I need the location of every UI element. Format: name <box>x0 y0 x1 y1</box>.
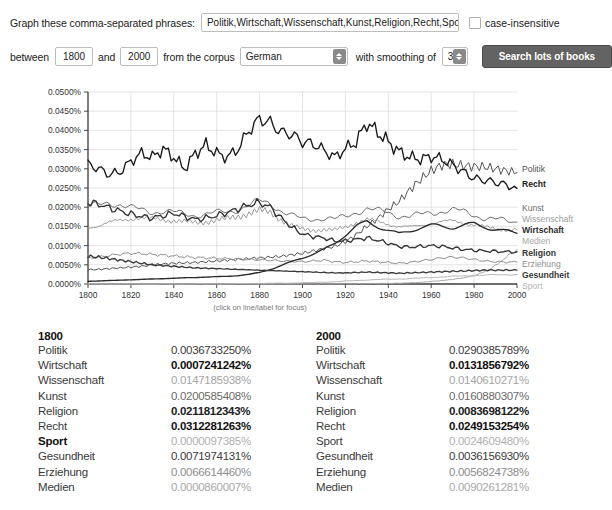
between-label: between <box>10 51 49 63</box>
legend-label-erziehung[interactable]: Erziehung <box>522 259 561 269</box>
x-axis-tick-label: 1900 <box>293 290 312 300</box>
legend-label-sport[interactable]: Sport <box>522 281 543 291</box>
table-row: Wirtschaft0.0007241242% <box>38 359 308 374</box>
chart-svg[interactable]: 0.0000%0.0050%0.0100%0.0150%0.0200%0.025… <box>0 84 601 320</box>
chevron-updown-icon[interactable] <box>333 49 346 64</box>
year-end-input[interactable]: 2000 <box>120 47 158 66</box>
x-axis-tick-label: 1960 <box>422 290 441 300</box>
table-row: Wissenschaft0.0140610271% <box>316 374 586 389</box>
row-value: 0.0024609480% <box>449 435 529 447</box>
data-table-1800: 1800 Politik0.0036733250%Wirtschaft0.000… <box>38 330 308 496</box>
legend-label-medien[interactable]: Medien <box>522 236 550 246</box>
row-value: 0.0036733250% <box>171 344 251 356</box>
and-label: and <box>98 51 115 63</box>
x-axis-tick-label: 1920 <box>336 290 355 300</box>
table-row: Sport0.0024609480% <box>316 435 586 450</box>
x-axis-tick-label: 1980 <box>465 290 484 300</box>
row-term: Erziehung <box>38 466 171 478</box>
case-insensitive-label: case-insensitive <box>485 17 560 29</box>
row-value: 0.0290385789% <box>449 344 529 356</box>
table-row: Gesundheit0.0036156930% <box>316 450 586 465</box>
row-value: 0.0211812343% <box>171 405 250 417</box>
phrases-row: Graph these comma-separated phrases: Pol… <box>10 13 560 32</box>
row-term: Medien <box>316 481 449 493</box>
table-year-heading: 2000 <box>316 330 586 342</box>
row-value: 0.0249153254% <box>449 420 529 432</box>
table-row: Sport0.0000097385% <box>38 435 308 450</box>
legend-label-kunst[interactable]: Kunst <box>522 203 545 213</box>
case-insensitive-toggle[interactable]: case-insensitive <box>469 17 560 29</box>
table-row: Religion0.0211812343% <box>38 405 308 420</box>
table-row: Erziehung0.0056824738% <box>316 466 586 481</box>
legend-label-recht[interactable]: Recht <box>522 179 546 189</box>
table-row: Politik0.0036733250% <box>38 344 308 359</box>
y-axis-tick-label: 0.0000% <box>48 279 82 289</box>
row-value: 0.0160880307% <box>449 390 529 402</box>
table-row: Wirtschaft0.0131856792% <box>316 359 586 374</box>
row-value: 0.0200585408% <box>171 390 251 402</box>
row-term: Wissenschaft <box>38 374 171 386</box>
legend-label-wirtschaft[interactable]: Wirtschaft <box>522 225 564 235</box>
table-row: Recht0.0249153254% <box>316 420 586 435</box>
checkbox-icon[interactable] <box>469 17 481 29</box>
legend-label-gesundheit[interactable]: Gesundheit <box>522 270 569 280</box>
corpus-label: from the corpus <box>163 51 234 63</box>
row-term: Religion <box>38 405 171 417</box>
row-term: Gesundheit <box>38 450 171 462</box>
legend-label-politik[interactable]: Politik <box>522 164 546 174</box>
row-term: Recht <box>316 420 449 432</box>
row-term: Kunst <box>38 390 171 402</box>
row-term: Kunst <box>316 390 449 402</box>
row-term: Wirtschaft <box>316 359 449 371</box>
table-row: Politik0.0290385789% <box>316 344 586 359</box>
y-axis-tick-label: 0.0100% <box>48 241 82 251</box>
row-value: 0.0312281263% <box>171 420 251 432</box>
x-axis-tick-label: 1940 <box>379 290 398 300</box>
row-value: 0.0090261281% <box>449 481 529 493</box>
table-row: Erziehung0.0066614460% <box>38 466 308 481</box>
row-value: 0.0140610271% <box>449 374 529 386</box>
row-value: 0.0056824738% <box>449 466 529 478</box>
table-row: Wissenschaft0.0147185938% <box>38 374 308 389</box>
row-value: 0.0131856792% <box>449 359 529 371</box>
row-value: 0.0083698122% <box>449 405 529 417</box>
smoothing-select-wrap[interactable]: 3 <box>442 47 468 66</box>
corpus-select-wrap[interactable]: German <box>240 47 348 66</box>
y-axis-tick-label: 0.0250% <box>48 183 82 193</box>
row-term: Recht <box>38 420 171 432</box>
table-row: Medien0.0090261281% <box>316 481 586 496</box>
table-row: Gesundheit0.0071974131% <box>38 450 308 465</box>
ngram-chart[interactable]: 0.0000%0.0050%0.0100%0.0150%0.0200%0.025… <box>0 84 601 320</box>
year-start-input[interactable]: 1800 <box>55 47 93 66</box>
y-axis-tick-label: 0.0400% <box>48 125 82 135</box>
legend-label-wissenschaft[interactable]: Wissenschaft <box>522 214 574 224</box>
search-phrases-input[interactable]: Politik,Wirtschaft,Wissenschaft,Kunst,Re… <box>201 13 459 32</box>
row-term: Wirtschaft <box>38 359 171 371</box>
row-term: Politik <box>316 344 449 356</box>
table-year-heading: 1800 <box>38 330 308 342</box>
corpus-select[interactable]: German <box>240 47 348 66</box>
row-term: Politik <box>38 344 171 356</box>
y-axis-tick-label: 0.0450% <box>48 106 82 116</box>
row-value: 0.0007241242% <box>171 359 251 371</box>
row-term: Medien <box>38 481 171 493</box>
x-axis-tick-label: 1840 <box>164 290 183 300</box>
legend-label-religion[interactable]: Religion <box>522 248 556 258</box>
row-value: 0.0000860007% <box>171 481 251 493</box>
row-term: Sport <box>316 435 449 447</box>
x-axis-tick-label: 1860 <box>207 290 226 300</box>
row-value: 0.0036156930% <box>449 450 529 462</box>
y-axis-tick-label: 0.0300% <box>48 164 82 174</box>
search-button[interactable]: Search lots of books <box>482 45 612 68</box>
results-tables: 1800 Politik0.0036733250%Wirtschaft0.000… <box>0 330 601 510</box>
x-axis-tick-label: 1880 <box>250 290 269 300</box>
data-table-2000: 2000 Politik0.0290385789%Wirtschaft0.013… <box>316 330 586 496</box>
chevron-updown-icon[interactable] <box>453 49 466 64</box>
table-row: Recht0.0312281263% <box>38 420 308 435</box>
row-value: 0.0071974131% <box>171 450 251 462</box>
table-row: Religion0.0083698122% <box>316 405 586 420</box>
table-body: Politik0.0036733250%Wirtschaft0.00072412… <box>38 344 308 496</box>
chart-caption: (click on line/label for focus) <box>0 303 520 312</box>
row-term: Religion <box>316 405 449 417</box>
x-axis-tick-label: 1820 <box>122 290 141 300</box>
